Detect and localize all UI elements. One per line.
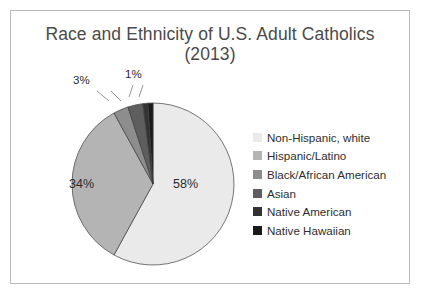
- pie-slice-group: [72, 103, 234, 265]
- legend-item[interactable]: Non-Hispanic, white: [253, 128, 413, 147]
- legend-item-label: Black/African American: [267, 168, 386, 181]
- legend-swatch-icon: [253, 226, 262, 235]
- leader-line-group: [97, 85, 143, 101]
- leader-line-3pct-b: [111, 91, 121, 101]
- leader-line-3pct-a: [97, 91, 109, 101]
- slice-label-non-hispanic-white: 58%: [173, 177, 198, 191]
- slice-label-three-percent: 3%: [73, 74, 90, 86]
- legend-item[interactable]: Black/African American: [253, 165, 413, 184]
- legend-swatch-icon: [253, 133, 262, 142]
- legend-item-label: Hispanic/Latino: [267, 149, 346, 162]
- leader-line-1pct-b: [139, 85, 143, 97]
- legend: Non-Hispanic, whiteHispanic/LatinoBlack/…: [253, 128, 413, 240]
- legend-item[interactable]: Asian: [253, 184, 413, 203]
- legend-swatch-icon: [253, 207, 262, 216]
- legend-item[interactable]: Native American: [253, 202, 413, 221]
- legend-item-label: Asian: [267, 187, 296, 200]
- legend-item-label: Native American: [267, 205, 351, 218]
- legend-item-label: Native Hawaiian: [267, 224, 351, 237]
- legend-swatch-icon: [253, 170, 262, 179]
- chart-frame: Race and Ethnicity of U.S. Adult Catholi…: [10, 10, 410, 284]
- slice-label-hispanic-latino: 34%: [69, 177, 94, 191]
- legend-item[interactable]: Hispanic/Latino: [253, 147, 413, 166]
- leader-line-1pct-a: [129, 85, 133, 97]
- legend-item[interactable]: Native Hawaiian: [253, 221, 413, 240]
- legend-swatch-icon: [253, 151, 262, 160]
- legend-item-label: Non-Hispanic, white: [267, 131, 370, 144]
- legend-swatch-icon: [253, 189, 262, 198]
- slice-label-one-percent: 1%: [125, 68, 142, 80]
